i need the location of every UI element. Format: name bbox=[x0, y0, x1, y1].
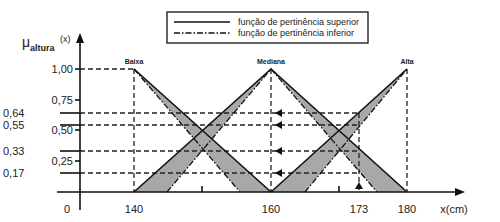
guide-lines bbox=[80, 69, 407, 192]
fuzzy-membership-chart: μ altura (x) 1,00 0,75 0,50 0,25 0,64 0,… bbox=[0, 0, 500, 222]
set-label-alta: Alta bbox=[400, 58, 413, 65]
y-axis-label-arg: (x) bbox=[60, 34, 71, 44]
arrow-left-icon bbox=[275, 121, 282, 129]
y-tick-label: 0,17 bbox=[3, 167, 24, 179]
y-tick-label: 0,33 bbox=[3, 145, 24, 157]
arrow-left-icon bbox=[275, 169, 282, 177]
y-tick-label: 0,75 bbox=[52, 94, 73, 106]
y-tick-label: 1,00 bbox=[52, 63, 73, 75]
legend: função de pertinência superior função de… bbox=[167, 12, 368, 43]
legend-inferior-label: função de pertinência inferior bbox=[238, 28, 354, 38]
y-tick-label: 0,55 bbox=[3, 119, 24, 131]
arrow-left-icon bbox=[275, 109, 282, 117]
x-tick-label: 0 bbox=[64, 203, 70, 215]
x-axis-label: x(cm) bbox=[440, 203, 468, 215]
y-axis-label-mu: μ bbox=[22, 34, 30, 50]
x-tick-label: 140 bbox=[125, 203, 143, 215]
y-tick-label: 0,50 bbox=[52, 124, 73, 136]
arrow-up-icon bbox=[355, 182, 363, 189]
y-tick-label: 0,64 bbox=[3, 107, 24, 119]
arrow-left-icon bbox=[275, 147, 282, 155]
x-tick-label: 173 bbox=[350, 203, 368, 215]
x-tick-label: 180 bbox=[398, 203, 416, 215]
legend-superior-label: função de pertinência superior bbox=[238, 17, 359, 27]
y-tick-label: 0,25 bbox=[52, 155, 73, 167]
x-axis-arrow-icon bbox=[455, 188, 465, 196]
set-label-baixa: Baixa bbox=[125, 58, 144, 65]
y-axis-label-sub: altura bbox=[30, 43, 56, 53]
x-tick-label: 160 bbox=[262, 203, 280, 215]
set-label-mediana: Mediana bbox=[257, 58, 285, 65]
y-axis-arrow-icon bbox=[76, 33, 84, 43]
